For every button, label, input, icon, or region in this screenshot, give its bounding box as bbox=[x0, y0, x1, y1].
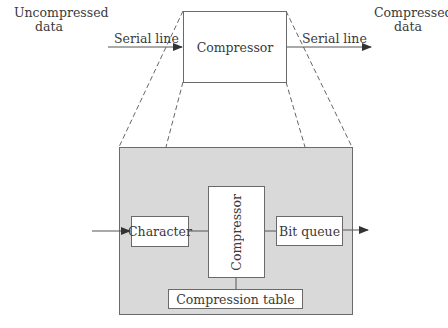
uncompressed-data-label: Uncompressed data bbox=[14, 6, 84, 34]
inner-compressor-box: Compressor bbox=[208, 186, 265, 278]
compressor-box: Compressor bbox=[183, 11, 287, 83]
compressed-line1: Compressed bbox=[374, 6, 442, 20]
character-box: Character bbox=[131, 216, 189, 247]
compressed-line2: data bbox=[374, 20, 442, 34]
output-serial-line-label: Serial line bbox=[302, 32, 367, 46]
compression-table-box: Compression table bbox=[168, 289, 303, 309]
inner-compressor-label: Compressor bbox=[229, 194, 244, 271]
uncompressed-line2: data bbox=[14, 20, 84, 34]
uncompressed-line1: Uncompressed bbox=[14, 6, 84, 20]
compressed-data-label: Compressed data bbox=[374, 6, 442, 34]
compressor-diagram: Uncompressed data Serial line Compressor… bbox=[0, 0, 448, 328]
bit-queue-box: Bit queue bbox=[276, 216, 343, 246]
input-serial-line-label: Serial line bbox=[114, 32, 179, 46]
